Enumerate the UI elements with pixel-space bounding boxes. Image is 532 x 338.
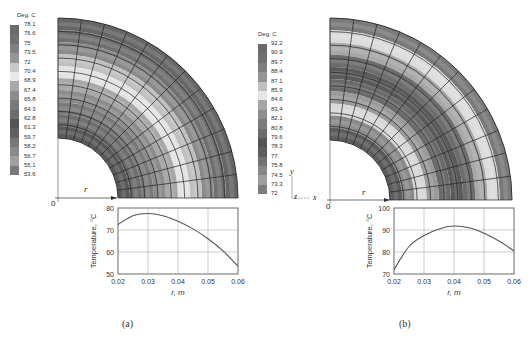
svg-text:0.03: 0.03 bbox=[141, 278, 155, 285]
svg-text:0.04: 0.04 bbox=[171, 278, 185, 285]
triad-z-label: z bbox=[294, 192, 297, 201]
origin-label: 0 bbox=[326, 202, 330, 211]
svg-text:60: 60 bbox=[106, 249, 114, 256]
svg-text:Temperature, °C: Temperature, °C bbox=[89, 213, 98, 268]
svg-text:0.02: 0.02 bbox=[387, 278, 401, 285]
svg-text:r, m: r, m bbox=[447, 288, 461, 297]
svg-text:50: 50 bbox=[106, 271, 114, 278]
caption-a: (a) bbox=[122, 318, 133, 329]
temperature-line-chart: 1009080700.020.030.040.050.06Temperature… bbox=[336, 200, 532, 305]
svg-text:80: 80 bbox=[382, 249, 390, 256]
svg-text:100: 100 bbox=[378, 205, 390, 212]
svg-text:0.05: 0.05 bbox=[477, 278, 491, 285]
svg-text:0.05: 0.05 bbox=[201, 278, 215, 285]
radius-axis-label: r bbox=[362, 187, 366, 197]
svg-text:70: 70 bbox=[106, 227, 114, 234]
svg-text:0.06: 0.06 bbox=[507, 278, 521, 285]
svg-text:0.04: 0.04 bbox=[447, 278, 461, 285]
svg-text:0.02: 0.02 bbox=[111, 278, 125, 285]
svg-text:0.03: 0.03 bbox=[417, 278, 431, 285]
triad-y-label: y bbox=[290, 167, 294, 176]
caption-b: (b) bbox=[399, 318, 411, 329]
temperature-line-chart: 807060500.020.030.040.050.06Temperature,… bbox=[60, 200, 260, 305]
svg-text:Temperature, °C: Temperature, °C bbox=[365, 213, 374, 268]
svg-text:0.06: 0.06 bbox=[231, 278, 245, 285]
triad-x-label: x bbox=[313, 193, 317, 202]
svg-text:r, m: r, m bbox=[171, 288, 185, 297]
contour-plot-quarter-annulus bbox=[0, 0, 532, 210]
svg-text:90: 90 bbox=[382, 227, 390, 234]
svg-text:70: 70 bbox=[382, 271, 390, 278]
